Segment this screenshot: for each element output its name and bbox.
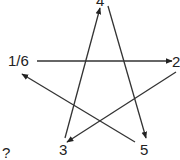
arrow-2-to-3 [67, 72, 176, 142]
node-label-2: 2 [172, 54, 180, 69]
node-label-5: 5 [140, 142, 148, 157]
arrow-5-to-1-6 [22, 74, 135, 142]
arrow-edges [22, 6, 176, 142]
pentagram-diagram [0, 0, 180, 160]
node-label-4: 4 [96, 0, 104, 8]
question-mark: ? [2, 145, 10, 160]
node-label-3: 3 [59, 142, 67, 157]
node-label-1-6: 1/6 [8, 53, 29, 68]
arrow-4-to-5 [108, 6, 146, 138]
